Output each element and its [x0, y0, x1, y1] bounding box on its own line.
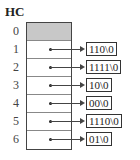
pointer-line-5 — [50, 121, 81, 122]
arrow-head-icon — [80, 136, 85, 142]
string-box-3: 10\0 — [86, 78, 112, 92]
row-index-0: 0 — [10, 24, 22, 39]
row-index-1: 1 — [10, 42, 22, 57]
string-box-4: 00\0 — [86, 96, 112, 110]
row-index-4: 4 — [10, 96, 22, 111]
pointer-line-3 — [50, 85, 81, 86]
string-box-1: 110\0 — [86, 42, 117, 56]
array-cell-5 — [27, 113, 71, 131]
arrow-head-icon — [80, 100, 85, 106]
row-index-2: 2 — [10, 60, 22, 75]
row-index-6: 6 — [10, 132, 22, 147]
array-cell-1 — [27, 41, 71, 59]
array-cell-2 — [27, 59, 71, 77]
array-cell-4 — [27, 95, 71, 113]
array-cell-6 — [27, 131, 71, 149]
array-cell-3 — [27, 77, 71, 95]
pointer-line-2 — [50, 67, 81, 68]
pointer-array — [26, 22, 72, 150]
arrow-head-icon — [80, 118, 85, 124]
string-box-6: 01\0 — [86, 132, 112, 146]
arrow-head-icon — [80, 46, 85, 52]
diagram-title: HC — [5, 4, 25, 20]
row-index-3: 3 — [10, 78, 22, 93]
arrow-head-icon — [80, 82, 85, 88]
string-box-2: 1111\0 — [86, 60, 121, 74]
pointer-line-6 — [50, 139, 81, 140]
pointer-line-4 — [50, 103, 81, 104]
row-index-5: 5 — [10, 114, 22, 129]
pointer-line-1 — [50, 49, 81, 50]
arrow-head-icon — [80, 64, 85, 70]
array-cell-0 — [27, 23, 71, 41]
string-box-5: 1110\0 — [86, 114, 122, 128]
